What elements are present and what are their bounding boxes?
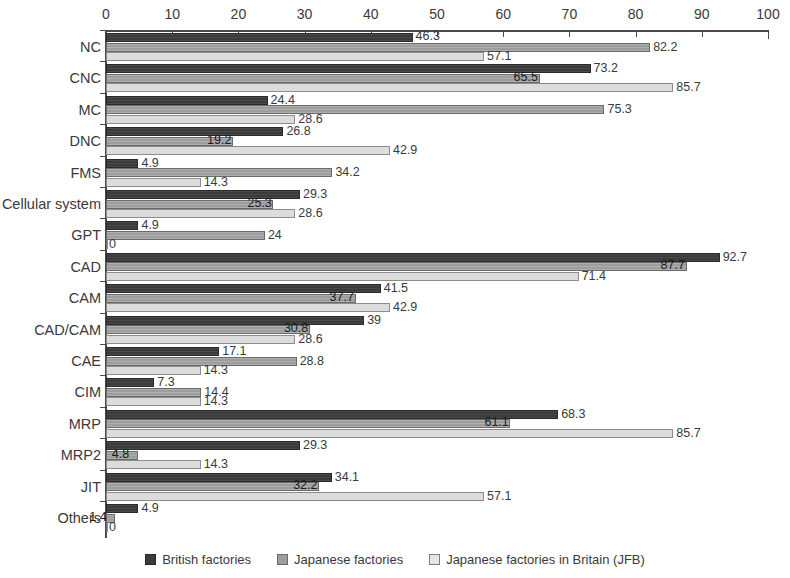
category-label: CIM bbox=[0, 384, 101, 400]
bar-value-label: 92.7 bbox=[723, 252, 747, 262]
bar-jfb bbox=[106, 83, 673, 92]
bar-value-label: 28.6 bbox=[298, 114, 322, 124]
bar-value-label: 24 bbox=[268, 230, 282, 240]
y-tick bbox=[100, 93, 106, 94]
bar-british bbox=[106, 316, 364, 325]
bar-value-label: 4.9 bbox=[141, 220, 158, 230]
bar-jfb bbox=[106, 209, 295, 218]
chart-row: DNC26.819.242.9 bbox=[0, 127, 790, 158]
bar-value-label: 34.1 bbox=[335, 472, 359, 482]
chart-row: CAD/CAM3930.828.6 bbox=[0, 316, 790, 347]
y-tick bbox=[100, 250, 106, 251]
category-label: CAE bbox=[0, 353, 101, 369]
bar-value-label: 85.7 bbox=[676, 428, 700, 438]
bar-value-label: 14.3 bbox=[204, 365, 228, 375]
bar-japanese bbox=[106, 105, 604, 114]
bar-british bbox=[106, 253, 720, 262]
x-tick-label-10: 10 bbox=[164, 6, 180, 22]
bar-value-label: 61.1 bbox=[484, 417, 508, 427]
category-label: Cellular system bbox=[0, 196, 101, 212]
category-label: Others bbox=[0, 510, 101, 526]
bar-japanese bbox=[106, 231, 265, 240]
category-label: FMS bbox=[0, 165, 101, 181]
y-tick bbox=[100, 156, 106, 157]
bar-value-label: 19.2 bbox=[207, 135, 231, 145]
bar-value-label: 24.4 bbox=[271, 95, 295, 105]
chart-row: CNC73.265.585.7 bbox=[0, 64, 790, 95]
bar-value-label: 75.3 bbox=[607, 104, 631, 114]
y-tick bbox=[100, 407, 106, 408]
bar-value-label: 42.9 bbox=[393, 145, 417, 155]
bar-value-label: 26.8 bbox=[286, 126, 310, 136]
x-tick-label-70: 70 bbox=[562, 6, 578, 22]
bar-japanese bbox=[106, 482, 319, 491]
chart-row: JIT34.132.257.1 bbox=[0, 473, 790, 504]
bar-jfb bbox=[106, 272, 579, 281]
y-tick bbox=[100, 375, 106, 376]
bar-british bbox=[106, 378, 154, 387]
y-tick bbox=[100, 438, 106, 439]
bar-japanese bbox=[106, 43, 650, 52]
y-tick bbox=[100, 281, 106, 282]
bar-value-label: 85.7 bbox=[676, 82, 700, 92]
bar-value-label: 73.2 bbox=[594, 63, 618, 73]
bar-chart: 0102030405060708090100 NC46.382.257.1CNC… bbox=[0, 0, 790, 578]
bar-jfb bbox=[106, 303, 390, 312]
y-tick bbox=[100, 501, 106, 502]
y-tick bbox=[100, 218, 106, 219]
legend-item-jfb: Japanese factories in Britain (JFB) bbox=[429, 552, 645, 567]
bar-value-label: 34.2 bbox=[335, 167, 359, 177]
bar-british bbox=[106, 127, 283, 136]
category-label: MRP bbox=[0, 416, 101, 432]
bar-jfb bbox=[106, 335, 295, 344]
bar-value-label: 14.3 bbox=[204, 459, 228, 469]
bar-british bbox=[106, 221, 138, 230]
chart-row: Others4.91.40 bbox=[0, 504, 790, 535]
chart-row: CIM7.314.414.3 bbox=[0, 378, 790, 409]
bar-value-label: 28.6 bbox=[298, 208, 322, 218]
y-tick bbox=[100, 61, 106, 62]
legend-item-japanese: Japanese factories bbox=[277, 552, 403, 567]
y-tick bbox=[100, 30, 106, 31]
legend-label-jfb: Japanese factories in Britain (JFB) bbox=[446, 552, 645, 567]
bar-jfb bbox=[106, 429, 673, 438]
bar-jfb bbox=[106, 460, 201, 469]
bar-value-label: 0 bbox=[109, 239, 116, 249]
bar-japanese bbox=[106, 357, 297, 366]
x-tick-label-50: 50 bbox=[429, 6, 445, 22]
bar-value-label: 87.7 bbox=[661, 260, 685, 270]
bar-value-label: 42.9 bbox=[393, 302, 417, 312]
chart-legend: British factories Japanese factories Jap… bbox=[0, 552, 790, 567]
bar-value-label: 28.6 bbox=[298, 334, 322, 344]
category-label: CNC bbox=[0, 70, 101, 86]
bar-jfb bbox=[106, 52, 484, 61]
chart-row: FMS4.934.214.3 bbox=[0, 159, 790, 190]
bar-jfb bbox=[106, 397, 201, 406]
bar-value-label: 0 bbox=[109, 522, 116, 532]
legend-swatch-british-icon bbox=[145, 554, 156, 565]
bar-value-label: 29.3 bbox=[303, 440, 327, 450]
bar-value-label: 14.3 bbox=[204, 396, 228, 406]
bar-value-label: 37.7 bbox=[330, 292, 354, 302]
bar-value-label: 32.2 bbox=[293, 480, 317, 490]
bar-jfb bbox=[106, 523, 108, 532]
bar-value-label: 71.4 bbox=[582, 271, 606, 281]
category-label: GPT bbox=[0, 227, 101, 243]
bar-british bbox=[106, 441, 300, 450]
chart-row: CAD92.787.771.4 bbox=[0, 253, 790, 284]
legend-label-japanese: Japanese factories bbox=[294, 552, 403, 567]
bar-jfb bbox=[106, 115, 295, 124]
bar-value-label: 82.2 bbox=[653, 42, 677, 52]
x-tick-label-60: 60 bbox=[495, 6, 511, 22]
bar-value-label: 29.3 bbox=[303, 189, 327, 199]
bar-japanese bbox=[106, 388, 201, 397]
bar-value-label: 65.5 bbox=[514, 72, 538, 82]
bar-value-label: 41.5 bbox=[384, 283, 408, 293]
bar-value-label: 28.8 bbox=[300, 356, 324, 366]
bar-value-label: 4.9 bbox=[141, 503, 158, 513]
chart-row: NC46.382.257.1 bbox=[0, 33, 790, 64]
legend-swatch-japanese-icon bbox=[277, 554, 288, 565]
category-label: MC bbox=[0, 102, 101, 118]
bar-value-label: 46.3 bbox=[416, 31, 440, 41]
bar-jfb bbox=[106, 178, 201, 187]
